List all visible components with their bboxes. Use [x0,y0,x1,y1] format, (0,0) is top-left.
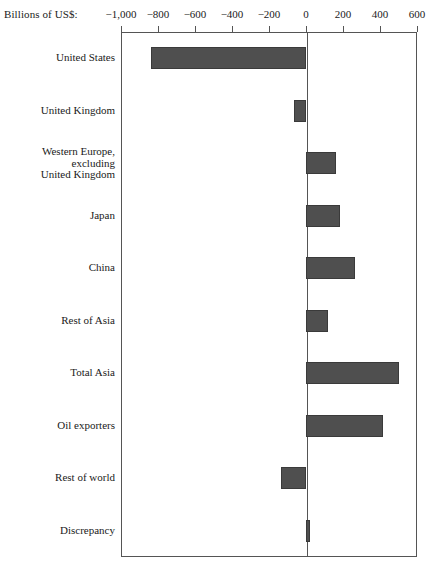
category-label: United States [6,53,121,65]
bar [306,205,340,227]
category-label: Rest of Asia [6,315,121,327]
bar [306,520,310,542]
category-label: Rest of world [6,473,121,485]
y-axis-category-labels: United StatesUnited KingdomWestern Europ… [0,0,121,570]
category-label: Total Asia [6,368,121,380]
x-axis-tick-label: 0 [303,8,309,20]
bar [294,100,306,122]
bar-series [121,32,417,557]
bar [306,362,399,384]
bar [306,415,383,437]
category-label: United Kingdom [6,105,121,117]
bar [281,467,306,489]
category-label: Western Europe, excluding United Kingdom [6,146,121,181]
bar [306,152,336,174]
category-label: Oil exporters [6,420,121,432]
x-axis-tick-label: 600 [409,8,426,20]
category-label: Discrepancy [6,525,121,537]
x-axis-tick-label: 400 [372,8,389,20]
category-label: China [6,263,121,275]
chart-container: Billions of US$: −1,000−800−600−400−2000… [0,0,436,570]
bar [306,310,328,332]
x-axis-tick-label: −800 [147,8,170,20]
bar [306,257,355,279]
x-axis-tick-label: −400 [221,8,244,20]
x-axis-tick-label: −200 [258,8,281,20]
x-axis-tick-mark [417,26,418,32]
category-label: Japan [6,210,121,222]
x-axis-tick-label: −600 [184,8,207,20]
x-axis-tick-label: 200 [335,8,352,20]
bar [151,47,306,69]
